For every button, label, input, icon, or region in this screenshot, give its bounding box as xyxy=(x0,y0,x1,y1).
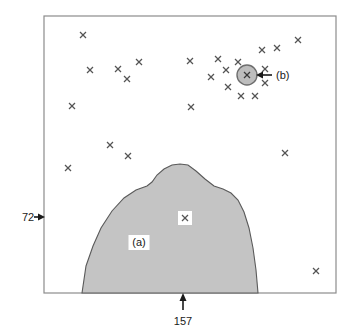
point-label-b: (b) xyxy=(276,69,289,81)
highlighted-point-b xyxy=(237,65,257,85)
region-label-group: (a) xyxy=(129,235,150,250)
point-pattern-figure: (a) (b) 72 157 xyxy=(0,0,349,335)
interior-point-marker xyxy=(178,211,192,225)
region-label-a: (a) xyxy=(132,236,145,248)
bottom-callout-value: 157 xyxy=(174,315,192,327)
left-callout-value: 72 xyxy=(22,211,34,223)
